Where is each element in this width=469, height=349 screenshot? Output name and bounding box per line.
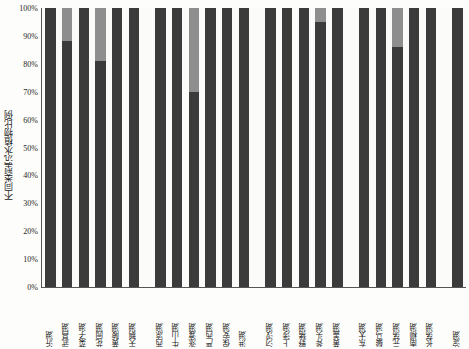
bar[interactable] bbox=[222, 8, 232, 287]
bar-group bbox=[449, 8, 466, 287]
x-axis-tick-label: 菜子湖 bbox=[79, 289, 87, 347]
x-axis-tick-label: 黄盖湖 bbox=[333, 289, 341, 347]
bar[interactable] bbox=[79, 8, 89, 287]
bar[interactable] bbox=[282, 8, 292, 287]
bar[interactable] bbox=[205, 8, 215, 287]
group-gap bbox=[439, 8, 449, 287]
x-axis-tick-label: 鬃马湖 bbox=[376, 289, 384, 347]
bar-segment bbox=[62, 41, 72, 287]
x-axis-tick: 沂湖 bbox=[41, 289, 58, 347]
y-axis-tick-label: 60% bbox=[14, 115, 38, 124]
x-axis-tick: 东太湖 bbox=[355, 289, 372, 347]
x-axis-tick: 黄盖湖 bbox=[328, 289, 345, 347]
y-axis-tick-label: 90% bbox=[14, 31, 38, 40]
bar[interactable] bbox=[299, 8, 309, 287]
bar-segment bbox=[222, 8, 232, 287]
x-axis-tick-label: 长荡湖 bbox=[426, 289, 434, 347]
y-axis-tick-label: 100% bbox=[14, 4, 38, 13]
bar-slot bbox=[389, 8, 406, 287]
group-gap bbox=[142, 8, 152, 287]
bar-segment bbox=[392, 8, 402, 47]
x-axis-tick-label: 沂湖 bbox=[46, 289, 54, 347]
x-axis-tick: 鬃马湖 bbox=[372, 289, 389, 347]
bar-slot bbox=[169, 8, 186, 287]
x-axis-tick-label: 天鹅湖 bbox=[129, 289, 137, 347]
x-axis-tick-label: 东太湖 bbox=[359, 289, 367, 347]
bar-segment bbox=[205, 8, 215, 287]
bar[interactable] bbox=[155, 8, 165, 287]
bar-segment bbox=[189, 8, 199, 92]
bar-slot bbox=[406, 8, 423, 287]
bar-series-container bbox=[42, 8, 466, 287]
bar-slot bbox=[109, 8, 126, 287]
group-gap bbox=[346, 8, 356, 287]
bar[interactable] bbox=[359, 8, 369, 287]
bar-slot bbox=[236, 8, 253, 287]
bar[interactable] bbox=[376, 8, 386, 287]
bar-segment bbox=[129, 8, 139, 287]
x-axis-tick-label: 保安湖 bbox=[223, 289, 231, 347]
bar[interactable] bbox=[426, 8, 436, 287]
bar-slot bbox=[186, 8, 203, 287]
bar-segment bbox=[409, 8, 419, 287]
bar[interactable] bbox=[172, 8, 182, 287]
bar-slot bbox=[42, 8, 59, 287]
bar-segment bbox=[359, 8, 369, 287]
bar-slot bbox=[59, 8, 76, 287]
bar-segment bbox=[315, 22, 325, 287]
bar-segment bbox=[95, 61, 105, 287]
bar[interactable] bbox=[315, 8, 325, 287]
bar[interactable] bbox=[332, 8, 342, 287]
y-axis-tick-label: 50% bbox=[14, 143, 38, 152]
bar[interactable] bbox=[62, 8, 72, 287]
x-axis-tick: 上涉湖 bbox=[278, 289, 295, 347]
bar-group bbox=[42, 8, 142, 287]
bar-segment bbox=[282, 8, 292, 287]
bar-segment bbox=[112, 8, 122, 287]
bar-slot bbox=[356, 8, 373, 287]
y-axis-tick-label: 10% bbox=[14, 255, 38, 264]
x-axis-tick-label: 西凉湖 bbox=[156, 289, 164, 347]
y-axis-tick-label: 40% bbox=[14, 171, 38, 180]
bar-slot bbox=[279, 8, 296, 287]
bar[interactable] bbox=[129, 8, 139, 287]
bar-segment bbox=[452, 8, 462, 287]
bar-segment bbox=[45, 8, 55, 287]
bar[interactable] bbox=[239, 8, 249, 287]
plot-area bbox=[41, 8, 466, 288]
bar[interactable] bbox=[112, 8, 122, 287]
bar-slot bbox=[262, 8, 279, 287]
bar[interactable] bbox=[409, 8, 419, 287]
bar[interactable] bbox=[45, 8, 55, 287]
x-axis-tick-labels: 沂湖武昌湖菜子湖花园湖黄陂湖天鹅湖西凉湖牛山湖涨渡湖严西湖保安湖洪湖汈汊湖上涉湖… bbox=[41, 289, 465, 349]
y-axis-tick-label: 70% bbox=[14, 87, 38, 96]
x-axis-tick-label: 牛山湖 bbox=[172, 289, 180, 347]
bar[interactable] bbox=[452, 8, 462, 287]
x-axis-tick: 野猪湖 bbox=[295, 289, 312, 347]
x-axis-tick: 洪湖 bbox=[235, 289, 252, 347]
x-axis-tick-label: 严西湖 bbox=[206, 289, 214, 347]
x-axis-tick-label: 武昌湖 bbox=[62, 289, 70, 347]
x-axis-tick-label: 斧头湖 bbox=[316, 289, 324, 347]
x-axis-tick: 南柳湖 bbox=[405, 289, 422, 347]
x-axis-tick: 黄陂湖 bbox=[108, 289, 125, 347]
y-axis-tick-label: 30% bbox=[14, 199, 38, 208]
bar-slot bbox=[125, 8, 142, 287]
bar[interactable] bbox=[265, 8, 275, 287]
bar-segment bbox=[376, 8, 386, 287]
group-gap bbox=[252, 8, 262, 287]
x-axis-tick: 元荡湖 bbox=[388, 289, 405, 347]
x-axis-tick: 长荡湖 bbox=[422, 289, 439, 347]
bar[interactable] bbox=[95, 8, 105, 287]
y-axis-tick-label: 20% bbox=[14, 227, 38, 236]
bar-segment bbox=[189, 92, 199, 287]
x-axis-tick-label: 洪湖 bbox=[239, 289, 247, 347]
bar-group bbox=[262, 8, 345, 287]
bar[interactable] bbox=[189, 8, 199, 287]
bar-segment bbox=[239, 8, 249, 287]
x-axis-tick: 严西湖 bbox=[201, 289, 218, 347]
bar[interactable] bbox=[392, 8, 402, 287]
bar-segment bbox=[392, 47, 402, 287]
bar-segment bbox=[79, 8, 89, 287]
bar-slot bbox=[422, 8, 439, 287]
